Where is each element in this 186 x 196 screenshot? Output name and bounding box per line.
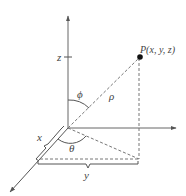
- x-label: x: [36, 131, 42, 143]
- theta-label: θ: [69, 142, 75, 154]
- y-label: y: [83, 169, 89, 181]
- rho-label: ρ: [108, 90, 114, 102]
- phi-arc: [68, 100, 89, 108]
- y-brace: [38, 161, 138, 168]
- spherical-coordinates-diagram: z P(x, y, z) ϕ ρ θ x y: [0, 0, 186, 196]
- phi-label: ϕ: [77, 88, 83, 100]
- point-p: [137, 54, 143, 60]
- point-p-label: P(x, y, z): [139, 44, 176, 56]
- z-label: z: [56, 51, 62, 63]
- ground-projection-line: [68, 128, 139, 159]
